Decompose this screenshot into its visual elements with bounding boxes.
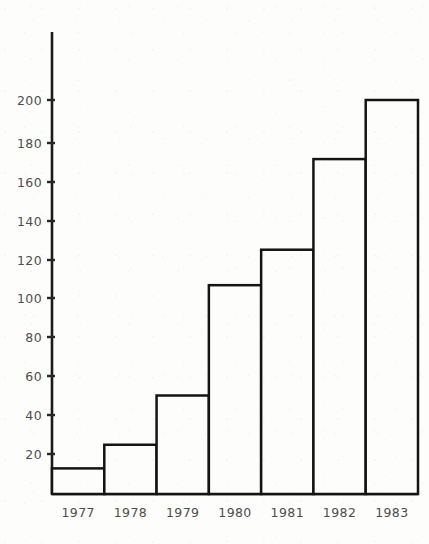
- x-tick-label: 1977: [61, 505, 94, 520]
- y-tick-label: 200: [17, 93, 42, 108]
- y-tick-label: 20: [25, 447, 42, 462]
- bar-series: [52, 100, 418, 494]
- y-tick-label: 120: [17, 253, 42, 268]
- x-tick-label: 1980: [218, 505, 251, 520]
- chart-page: 200 180 160 140 120 100 80 60 40 20 1977…: [0, 0, 429, 544]
- x-tick-label: 1978: [114, 505, 147, 520]
- y-tick-label: 180: [17, 136, 42, 151]
- y-tick-label: 160: [17, 175, 42, 190]
- bar-chart-svg: 200 180 160 140 120 100 80 60 40 20 1977…: [0, 0, 429, 544]
- bar-1980: [209, 285, 261, 494]
- y-tick-label: 80: [25, 330, 42, 345]
- x-tick-label: 1979: [166, 505, 199, 520]
- x-tick-label: 1982: [323, 505, 356, 520]
- bar-1983: [366, 100, 418, 494]
- x-tick-label: 1983: [375, 505, 408, 520]
- y-tick-label: 40: [25, 408, 42, 423]
- x-axis-tick-labels: 1977197819791980198119821983: [61, 505, 408, 520]
- bar-1981: [261, 250, 313, 494]
- y-tick-label: 140: [17, 214, 42, 229]
- bar-1977: [52, 468, 104, 494]
- y-tick-label: 60: [25, 369, 42, 384]
- bar-1978: [104, 445, 156, 494]
- bar-1979: [157, 396, 209, 495]
- bar-1982: [313, 159, 365, 494]
- y-tick-label: 100: [17, 291, 42, 306]
- y-axis-tick-labels: 200 180 160 140 120 100 80 60 40 20: [17, 93, 42, 462]
- bar-chart-plot-area: 200 180 160 140 120 100 80 60 40 20 1977…: [0, 0, 429, 544]
- x-tick-label: 1981: [271, 505, 304, 520]
